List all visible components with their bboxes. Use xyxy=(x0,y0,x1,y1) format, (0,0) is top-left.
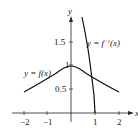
x-tick-label: 1 xyxy=(93,117,98,127)
y-tick-label: 1 xyxy=(65,60,70,70)
x-tick-label: −2 xyxy=(20,117,30,127)
f-inverse-curve xyxy=(82,17,95,113)
y-tick-label: 0.5 xyxy=(55,84,67,94)
y-axis-arrow-icon xyxy=(69,16,73,22)
x-tick-label: 2 xyxy=(117,117,122,127)
x-tick-label: −1 xyxy=(43,117,53,127)
y-tick-label: 1.5 xyxy=(54,37,66,47)
y-axis-label: y xyxy=(67,6,72,16)
f-label: y = f(x) xyxy=(23,68,51,78)
f-inverse-label: y = f−1(x) xyxy=(86,38,120,48)
function-inverse-chart: x y −2 −1 1 2 1.5 1 0.5 y = f(x) y = f−1… xyxy=(0,0,138,138)
x-axis-arrow-icon xyxy=(128,111,134,115)
x-axis-label: x xyxy=(134,108,138,118)
